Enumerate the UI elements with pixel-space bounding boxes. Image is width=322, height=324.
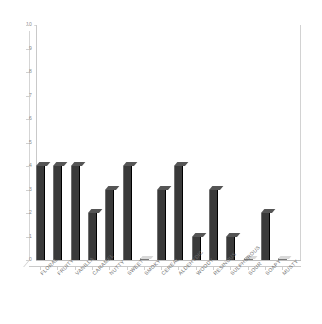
x-axis-label: SOUR [247, 260, 263, 276]
y-axis-tick-mark [26, 96, 29, 97]
y-axis-tick-mark [26, 143, 29, 144]
bar[interactable] [209, 190, 218, 261]
x-axis-line [36, 260, 301, 261]
y-axis-tick-mark [26, 260, 29, 261]
bar[interactable] [36, 166, 45, 260]
bar[interactable] [157, 190, 166, 261]
y-axis-tick-mark [26, 237, 29, 238]
y-axis-tick-mark [26, 213, 29, 214]
bar[interactable] [105, 190, 114, 261]
bar[interactable] [53, 166, 62, 260]
bar[interactable] [174, 166, 183, 260]
bar[interactable] [71, 166, 80, 260]
y-axis-tick-mark [26, 25, 29, 26]
bar[interactable] [261, 213, 270, 260]
y-axis-tick-mark [26, 190, 29, 191]
bar[interactable] [88, 213, 97, 260]
x-axis-label: NUTTY [108, 259, 126, 277]
bar[interactable] [123, 166, 132, 260]
y-axis-tick-mark [26, 49, 29, 50]
y-axis-tick-mark [26, 119, 29, 120]
bar-chart: 012345678910 FLORALFRUITYVANILLACARAMELN… [0, 0, 322, 324]
bar-top-face [192, 233, 206, 237]
y-axis-tick-mark [26, 72, 29, 73]
y-axis: 012345678910 [0, 0, 32, 324]
y-axis-tick-mark [26, 166, 29, 167]
